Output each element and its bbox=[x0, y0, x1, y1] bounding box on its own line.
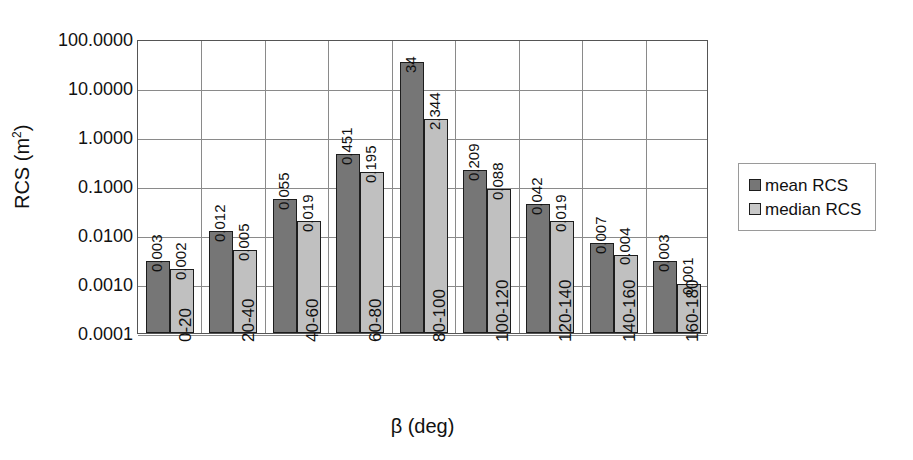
y-axis-tick-label: 0.0100 bbox=[41, 227, 133, 245]
y-axis-tick-label: 10.0000 bbox=[41, 80, 133, 98]
bar-value-label: 0.003 bbox=[149, 234, 164, 272]
bar-value-label: 0.019 bbox=[300, 195, 315, 233]
vertical-gridline bbox=[328, 41, 329, 333]
y-axis-tick-label: 0.0001 bbox=[41, 325, 133, 343]
legend-swatch-icon bbox=[749, 203, 761, 215]
rcs-bar-chart: RCS (m2) 100.000010.00001.00000.10000.01… bbox=[0, 0, 913, 460]
x-axis-tick-label: 160-180 bbox=[684, 280, 701, 342]
bar-value-label: 0.003 bbox=[656, 234, 671, 272]
bar-value-label: 0.088 bbox=[490, 162, 505, 200]
vertical-gridline bbox=[519, 41, 520, 333]
bar-mean-80-100 bbox=[400, 62, 424, 333]
bar-mean-140-160 bbox=[590, 243, 614, 333]
legend-label: mean RCS bbox=[765, 177, 848, 194]
vertical-gridline bbox=[455, 41, 456, 333]
y-axis-tick-label: 0.1000 bbox=[41, 178, 133, 196]
bar-value-label: 0.055 bbox=[276, 172, 291, 210]
vertical-gridline bbox=[201, 41, 202, 333]
x-axis-tick-label: 100-120 bbox=[494, 280, 511, 342]
y-axis-title-tail: ) bbox=[11, 125, 33, 132]
bar-value-label: 0.042 bbox=[529, 178, 544, 216]
bar-mean-20-40 bbox=[209, 231, 233, 333]
y-axis-tick-label: 1.0000 bbox=[41, 129, 133, 147]
y-axis-title-text: RCS (m bbox=[11, 138, 33, 209]
y-axis-title-exponent: 2 bbox=[10, 131, 24, 138]
bar-value-label: 0.012 bbox=[212, 205, 227, 243]
vertical-gridline bbox=[582, 41, 583, 333]
y-axis-tick-labels: 100.000010.00001.00000.10000.01000.00100… bbox=[38, 0, 133, 460]
x-axis-tick-label: 120-140 bbox=[557, 280, 574, 342]
legend-swatch-icon bbox=[749, 179, 761, 191]
x-axis-tick-label: 140-160 bbox=[621, 280, 638, 342]
vertical-gridline bbox=[265, 41, 266, 333]
bar-value-label: 0.007 bbox=[593, 216, 608, 254]
legend: mean RCSmedian RCS bbox=[738, 163, 876, 231]
bar-value-label: 0.451 bbox=[339, 127, 354, 165]
x-axis-tick-label: 40-60 bbox=[304, 299, 321, 342]
legend-label: median RCS bbox=[765, 201, 861, 218]
x-axis-tick-label: 60-80 bbox=[367, 299, 384, 342]
bar-value-label: 34 bbox=[403, 56, 418, 73]
bar-value-label: 0.209 bbox=[466, 144, 481, 182]
x-axis-tick-labels: 0-2020-4040-6060-8080-100100-120120-1401… bbox=[137, 336, 708, 426]
bar-mean-100-120 bbox=[463, 170, 487, 333]
y-axis-title: RCS (m2) bbox=[10, 87, 34, 247]
legend-item: mean RCS bbox=[749, 173, 861, 197]
bar-value-label: 0.004 bbox=[617, 228, 632, 266]
x-axis-tick-label: 20-40 bbox=[240, 299, 257, 342]
x-axis-title: β (deg) bbox=[137, 415, 708, 438]
bar-mean-40-60 bbox=[273, 199, 297, 333]
bar-value-label: 0.005 bbox=[236, 223, 251, 261]
bar-value-label: 2.344 bbox=[427, 92, 442, 130]
legend-item: median RCS bbox=[749, 197, 861, 221]
vertical-gridline bbox=[392, 41, 393, 333]
y-axis-tick-label: 0.0010 bbox=[41, 276, 133, 294]
bar-value-label: 0.195 bbox=[363, 145, 378, 183]
bar-value-label: 0.002 bbox=[173, 243, 188, 281]
y-axis-tick-label: 100.0000 bbox=[41, 31, 133, 49]
x-axis-tick-label: 80-100 bbox=[431, 289, 448, 342]
vertical-gridline bbox=[646, 41, 647, 333]
bar-value-label: 0.019 bbox=[553, 195, 568, 233]
bar-mean-60-80 bbox=[336, 154, 360, 333]
bar-mean-120-140 bbox=[526, 204, 550, 333]
x-axis-tick-label: 0-20 bbox=[177, 308, 194, 342]
